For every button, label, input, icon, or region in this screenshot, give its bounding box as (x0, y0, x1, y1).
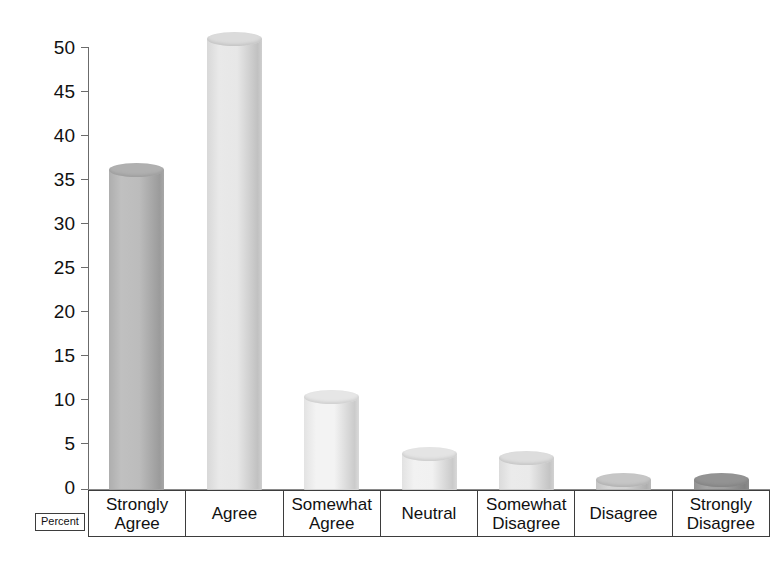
category-label-3: SomewhatAgree (284, 491, 381, 536)
y-tick-40: 40 (0, 126, 75, 145)
y-tick-30: 30 (0, 214, 75, 233)
y-tick-0: 0 (0, 478, 75, 497)
category-label-6: Disagree (575, 491, 672, 536)
y-tick-mark (81, 91, 88, 92)
cylinder-top-ellipse (109, 163, 164, 177)
y-tick-mark (81, 179, 88, 180)
category-axis-table: StronglyAgreeAgreeSomewhatAgreeNeutralSo… (88, 490, 770, 537)
cylinder-body (207, 39, 262, 489)
y-tick-mark (81, 443, 88, 444)
y-tick-label: 0 (29, 478, 75, 497)
cylinder-body (304, 397, 359, 489)
y-tick-20: 20 (0, 302, 75, 321)
category-label-text: Agree (212, 504, 257, 523)
category-label-text: SomewhatAgree (292, 495, 372, 533)
y-tick-mark (81, 267, 88, 268)
y-tick-10: 10 (0, 390, 75, 409)
category-label-text: StronglyDisagree (687, 495, 755, 533)
bar-4 (402, 20, 457, 490)
category-label-text: Disagree (590, 504, 658, 523)
plot-area (88, 20, 770, 490)
y-tick-25: 25 (0, 258, 75, 277)
y-tick-label: 25 (29, 258, 75, 277)
y-tick-mark (81, 355, 88, 356)
cylinder-top-ellipse (402, 447, 457, 461)
cylinder-bar (304, 390, 359, 496)
category-label-2: Agree (186, 491, 283, 536)
bar-2 (207, 20, 262, 490)
y-tick-mark (81, 47, 88, 48)
category-label-5: SomewhatDisagree (478, 491, 575, 536)
y-tick-15: 15 (0, 346, 75, 365)
bar-3 (304, 20, 359, 490)
percent-legend-label: Percent (41, 515, 79, 527)
bar-1 (109, 20, 164, 490)
category-label-text: Neutral (402, 504, 457, 523)
cylinder-bar (207, 32, 262, 496)
y-tick-label: 35 (29, 170, 75, 189)
cylinder-bar (109, 163, 164, 496)
y-tick-label: 50 (29, 38, 75, 57)
percent-legend-box: Percent (35, 513, 85, 531)
y-tick-label: 20 (29, 302, 75, 321)
y-tick-label: 10 (29, 390, 75, 409)
cylinder-bar (402, 447, 457, 496)
y-tick-label: 40 (29, 126, 75, 145)
category-label-4: Neutral (381, 491, 478, 536)
category-label-7: StronglyDisagree (673, 491, 769, 536)
y-tick-5: 5 (0, 434, 75, 453)
bar-6 (596, 20, 651, 490)
category-label-text: StronglyAgree (106, 495, 168, 533)
category-label-text: SomewhatDisagree (486, 495, 566, 533)
y-tick-35: 35 (0, 170, 75, 189)
cylinder-body (109, 170, 164, 489)
bar-chart: 50 45 40 35 30 25 20 15 10 5 0 Str (0, 0, 780, 574)
y-tick-mark (81, 489, 88, 490)
y-tick-mark (81, 135, 88, 136)
cylinder-top-ellipse (207, 32, 262, 46)
y-tick-mark (81, 399, 88, 400)
category-label-1: StronglyAgree (89, 491, 186, 536)
y-tick-label: 5 (29, 434, 75, 453)
bar-5 (499, 20, 554, 490)
y-tick-50: 50 (0, 38, 75, 57)
bar-7 (694, 20, 749, 490)
y-tick-label: 30 (29, 214, 75, 233)
y-tick-mark (81, 223, 88, 224)
y-tick-mark (81, 311, 88, 312)
y-tick-label: 45 (29, 82, 75, 101)
y-tick-45: 45 (0, 82, 75, 101)
y-tick-label: 15 (29, 346, 75, 365)
